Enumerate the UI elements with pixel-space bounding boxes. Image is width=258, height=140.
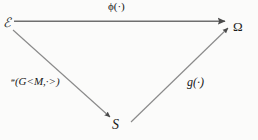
edge-label-n-rest: (G<M,·>)	[15, 75, 60, 87]
edge-s-to-omega	[131, 28, 228, 122]
edge-label-g: g(·)	[187, 76, 204, 88]
node-epsilon: ℰ	[3, 16, 11, 29]
diagram-edges-layer	[0, 0, 258, 140]
diagram-canvas: ℰ Ω S ϕ(·) ᵊ(G<M,·>) g(·)	[0, 0, 258, 140]
node-omega: Ω	[233, 20, 243, 33]
edge-label-phi: ϕ(·)	[108, 1, 125, 12]
node-s: S	[112, 118, 119, 132]
edge-label-n: ᵊ(G<M,·>)	[11, 76, 60, 87]
edge-epsilon-to-s	[13, 30, 110, 117]
